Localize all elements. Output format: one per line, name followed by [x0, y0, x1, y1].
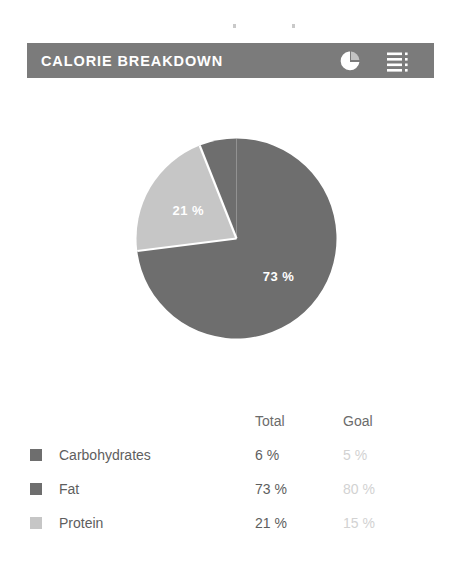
legend-row-protein[interactable]: Protein 21 % 15 % — [27, 506, 427, 540]
legend-swatch-protein — [30, 517, 42, 529]
legend-header-total: Total — [255, 413, 343, 429]
pie-label-protein: 21 % — [172, 203, 204, 218]
scan-speck — [233, 24, 236, 28]
legend-total-carbohydrates: 6 % — [255, 447, 343, 463]
card-header: CALORIE BREAKDOWN — [27, 43, 434, 78]
legend-name-protein: Protein — [59, 515, 255, 531]
legend-name-carbohydrates: Carbohydrates — [59, 447, 255, 463]
legend-goal-protein: 15 % — [343, 515, 375, 531]
legend-row-carbohydrates[interactable]: Carbohydrates 6 % 5 % — [27, 438, 427, 472]
pie-label-fat: 73 % — [263, 269, 295, 284]
calorie-pie-chart: 73 % 21 % — [136, 138, 337, 339]
legend-swatch-fat — [30, 483, 42, 495]
page-title: CALORIE BREAKDOWN — [41, 53, 338, 69]
legend-goal-fat: 80 % — [343, 481, 375, 497]
legend-row-fat[interactable]: Fat 73 % 80 % — [27, 472, 427, 506]
legend-name-fat: Fat — [59, 481, 255, 497]
legend-goal-carbohydrates: 5 % — [343, 447, 367, 463]
legend-header-goal: Goal — [343, 413, 373, 429]
legend-header-row: Total Goal — [27, 404, 427, 438]
list-menu-icon[interactable] — [386, 49, 420, 73]
legend-header-swatch-spacer — [30, 415, 42, 427]
legend-table: Total Goal Carbohydrates 6 % 5 % Fat 73 … — [27, 404, 427, 540]
legend-swatch-carbohydrates — [30, 449, 42, 461]
calorie-breakdown-card: CALORIE BREAKDOWN — [0, 0, 461, 577]
legend-total-fat: 73 % — [255, 481, 343, 497]
scan-speck — [292, 24, 295, 28]
legend-total-protein: 21 % — [255, 515, 343, 531]
pie-chart-icon[interactable] — [338, 49, 372, 73]
